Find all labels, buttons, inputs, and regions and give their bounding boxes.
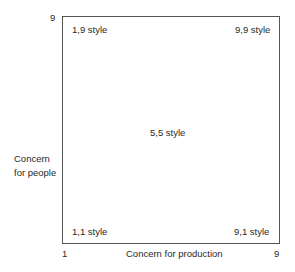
style-1-9-label: 1,9 style: [72, 24, 107, 35]
x-axis-min-label: 1: [62, 248, 67, 259]
y-axis-max-label: 9: [50, 12, 55, 23]
y-axis-label-line1: Concern: [14, 152, 56, 166]
y-axis-label: Concern for people: [14, 152, 56, 180]
style-9-9-label: 9,9 style: [235, 24, 270, 35]
style-9-1-label: 9,1 style: [234, 226, 269, 237]
style-1-1-label: 1,1 style: [72, 226, 107, 237]
x-axis-max-label: 9: [274, 248, 279, 259]
y-axis-label-line2: for people: [14, 166, 56, 180]
style-5-5-label: 5,5 style: [150, 127, 185, 138]
x-axis-label: Concern for production: [126, 248, 223, 259]
